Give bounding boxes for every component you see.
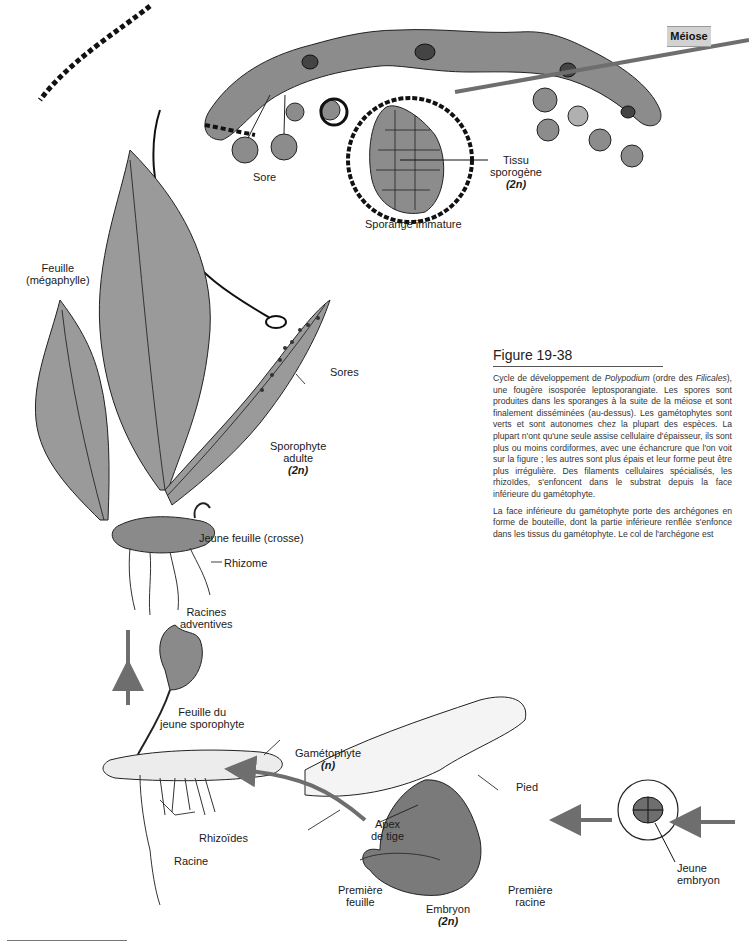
young-embryo — [618, 780, 678, 862]
label-embryon-ploidy: (2n) — [426, 915, 470, 927]
caption-order: Filicales — [696, 373, 727, 383]
label-sporange-immature: Sporange immature — [365, 218, 462, 230]
label-feuille-du-line1: Feuille du — [160, 706, 244, 718]
label-jeune-embryon-line1: Jeune — [677, 862, 720, 874]
label-apex-line1: Apex — [371, 818, 404, 830]
label-premiere-feuille-line2: feuille — [338, 896, 383, 908]
label-sporophyte-line1: Sporophyte — [270, 440, 326, 452]
label-premiere-racine-line1: Première — [508, 884, 553, 896]
label-sporophyte-adulte: Sporophyte adulte (2n) — [270, 440, 326, 476]
label-racines-line1: Racines — [180, 606, 233, 618]
label-pied: Pied — [516, 781, 538, 793]
caption-paragraph-2: La face inférieure du gamétophyte porte … — [493, 506, 732, 541]
label-premiere-racine: Première racine — [508, 884, 553, 908]
label-embryon-text: Embryon — [426, 903, 470, 915]
label-feuille-jeune-sporophyte: Feuille du jeune sporophyte — [160, 706, 244, 730]
label-jeune-embryon: Jeune embryon — [677, 862, 720, 886]
label-tissu-sporogene: Tissu sporogène (2n) — [490, 154, 542, 190]
label-premiere-feuille: Première feuille — [338, 884, 383, 908]
pinna-cross-section — [205, 30, 749, 167]
label-gametophyte-ploidy: (n) — [295, 759, 361, 771]
label-apex-line2: de tige — [371, 830, 404, 842]
embryo-section — [305, 697, 526, 895]
label-sporophyte-line2: adulte — [270, 452, 326, 464]
label-premiere-feuille-line1: Première — [338, 884, 383, 896]
footnote-rule — [7, 940, 127, 941]
label-gametophyte: Gamétophyte (n) — [295, 747, 361, 771]
figure-number: Figure 19-38 — [493, 347, 572, 363]
label-sore: Sore — [253, 171, 276, 183]
sporangium-magnified — [348, 98, 488, 222]
label-feuille-line1: Feuille — [26, 262, 90, 274]
label-embryon: Embryon (2n) — [426, 903, 470, 927]
label-jeune-embryon-line2: embryon — [677, 874, 720, 886]
label-rhizome: Rhizome — [224, 557, 267, 569]
label-racines-adventives: Racines adventives — [180, 606, 233, 630]
label-feuille-line2: (mégaphylle) — [26, 274, 90, 286]
label-tissu-line1: Tissu — [490, 154, 542, 166]
caption-text: (ordre des — [650, 373, 696, 383]
label-sores: Sores — [330, 366, 359, 378]
caption-genus: Polypodium — [605, 373, 650, 383]
figure-title-rule — [493, 366, 663, 367]
figure-caption: Cycle de développement de Polypodium (or… — [493, 373, 732, 545]
label-feuille-megaphylle: Feuille (mégaphylle) — [26, 262, 90, 286]
caption-text: ), une fougère isosporée leptosporangiat… — [493, 373, 732, 499]
label-tissu-line2: sporogène — [490, 166, 542, 178]
label-rhizoides: Rhizoïdes — [199, 832, 248, 844]
label-racine: Racine — [174, 855, 208, 867]
label-feuille-du-line2: jeune sporophyte — [160, 718, 244, 730]
label-apex-tige: Apex de tige — [371, 818, 404, 842]
caption-paragraph-1: Cycle de développement de Polypodium (or… — [493, 373, 732, 501]
label-jeune-feuille: Jeune feuille (crosse) — [199, 532, 304, 544]
label-tissu-ploidy: (2n) — [490, 178, 542, 190]
label-racines-line2: adventives — [180, 618, 233, 630]
label-gametophyte-text: Gamétophyte — [295, 747, 361, 759]
label-sporophyte-ploidy: (2n) — [270, 464, 326, 476]
label-premiere-racine-line2: racine — [508, 896, 553, 908]
caption-text: Cycle de développement de — [493, 373, 605, 383]
meiosis-stage-label: Méiose — [667, 26, 711, 47]
